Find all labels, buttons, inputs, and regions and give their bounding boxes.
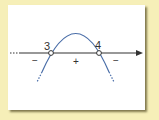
- sign-middle: +: [73, 56, 79, 67]
- sign-right: −: [113, 55, 119, 66]
- sign-left: −: [32, 55, 38, 66]
- root-label-4: 4: [95, 39, 101, 51]
- root-point-4: [97, 51, 102, 56]
- parabola-tail-right: [109, 72, 114, 82]
- axis-arrow-icon: [136, 50, 143, 56]
- sign-chart-diagram: 3 4 − + −: [0, 0, 159, 120]
- parabola-tail-left: [37, 72, 42, 82]
- root-label-3: 3: [44, 40, 50, 52]
